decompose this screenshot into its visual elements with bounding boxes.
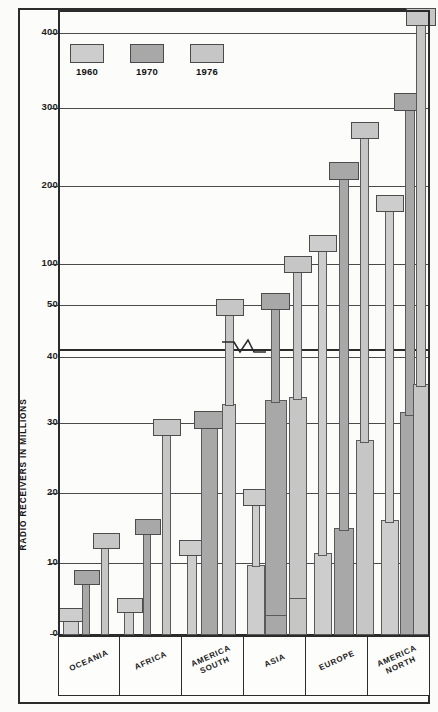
legend-item-1976: 1976 [190,44,224,77]
gridline-300 [58,108,430,109]
bar-america-south-1976-stem [225,311,234,406]
gridline-30 [58,423,430,424]
bar-america-south-1970-flag [194,411,224,429]
legend-item-1970: 1970 [130,44,164,77]
chart-legend: 1960 1970 1976 [70,44,224,77]
ytick-dash-50 [50,305,58,306]
ytick-dash-0 [50,634,58,635]
legend-swatch-1976 [190,44,224,63]
ytick-400: 400 [12,26,58,37]
gridline-100 [58,264,430,265]
bar-europe-1976-base [356,440,374,635]
ytick-50: 50 [12,298,58,309]
bar-asia-1970-flag [261,293,290,310]
legend-swatch-1970 [130,44,164,63]
y-axis-ticks: 400 300 200 100 50 40 30 20 10 0 [0,0,58,700]
ytick-300: 300 [12,101,58,112]
bar-asia-1976-base [289,596,307,635]
category-box-america-south: AMERICA SOUTH [182,636,244,696]
ytick-dash-20 [50,493,58,494]
category-axis: OCEANIA AFRICA AMERICA SOUTH ASIA EUROPE… [58,636,430,696]
plot-top-border [58,10,430,12]
category-label-europe: EUROPE [317,649,356,674]
gridline-200 [58,186,430,187]
ytick-dash-10 [50,563,58,564]
category-box-oceania: OCEANIA [58,636,120,696]
category-label-america-north: AMERICA NORTH [375,644,422,679]
bar-asia-1970-base2 [265,400,287,616]
ytick-100: 100 [12,257,58,268]
category-label-africa: AFRICA [133,650,169,673]
bar-america-north-1960-flag [376,195,404,212]
y-axis-title: RADIO RECEIVERS IN MILLIONS [19,390,28,560]
bar-asia-1960-base [247,565,265,635]
ytick-dash-30 [50,423,58,424]
bar-asia-1970-base [265,613,287,635]
legend-swatch-1960 [70,44,104,63]
category-label-asia: ASIA [262,652,286,670]
gridline-400 [58,33,430,34]
bar-america-north-1960-base [381,520,399,635]
ytick-0: 0 [12,627,58,638]
bar-africa-1960-flag [117,598,143,613]
ytick-dash-100 [50,264,58,265]
bar-asia-1960-stem [252,501,260,567]
legend-label-1960: 1960 [70,66,104,77]
bar-europe-1960-flag [309,235,337,252]
bar-oceania-1960-flag [58,608,84,622]
bar-asia-1976-flag [284,256,312,273]
category-box-africa: AFRICA [120,636,182,696]
bar-africa-1970-stem [143,528,151,635]
legend-label-1976: 1976 [190,66,224,77]
bar-africa-1976-flag [153,419,181,436]
bar-asia-1976-base2 [289,397,307,599]
legend-item-1960: 1960 [70,44,104,77]
bar-america-south-1976-base [222,404,236,635]
ytick-40: 40 [12,350,58,361]
category-box-europe: EUROPE [306,636,368,696]
axis-break-zigzag-icon [222,338,266,358]
bar-oceania-1970-stem [82,578,90,635]
bar-asia-1976-stem [293,268,302,400]
bar-europe-1960-stem [318,247,327,556]
plot-right-border [428,10,430,636]
bar-oceania-1976-flag [93,533,120,549]
category-box-asia: ASIA [244,636,306,696]
bar-oceania-1970-flag [74,570,100,585]
bar-america-south-1970-base [201,426,218,635]
category-label-america-south: AMERICA SOUTH [189,644,236,679]
y-axis-line [58,10,60,636]
gridline-10 [58,563,430,564]
bar-europe-1960-base [314,553,332,635]
bar-oceania-1976-stem [101,542,109,635]
category-label-oceania: OCEANIA [68,648,110,674]
bar-europe-1970-stem [339,175,349,531]
bar-america-north-1976-stem [416,21,426,387]
ytick-dash-400 [50,33,58,34]
ytick-dash-300 [50,108,58,109]
bar-europe-1976-stem [360,134,369,443]
bar-europe-1976-flag [351,122,379,139]
ytick-200: 200 [12,179,58,190]
category-box-america-north: AMERICA NORTH [368,636,430,696]
bar-america-north-1970-stem [405,106,415,416]
bar-america-south-1960-stem [187,549,197,635]
bar-europe-1970-base [334,528,354,635]
legend-label-1970: 1970 [130,66,164,77]
chart-page: 400 300 200 100 50 40 30 20 10 0 RADIO R… [0,0,438,712]
bar-america-north-1960-stem [385,207,394,523]
gridline-50 [58,305,430,306]
bar-asia-1970-stem [271,305,280,403]
bar-america-south-1976-flag [216,299,244,316]
ytick-dash-200 [50,186,58,187]
bar-africa-1976-stem [162,431,171,635]
bar-africa-1970-flag [135,519,161,535]
bar-europe-1970-flag [329,162,359,180]
